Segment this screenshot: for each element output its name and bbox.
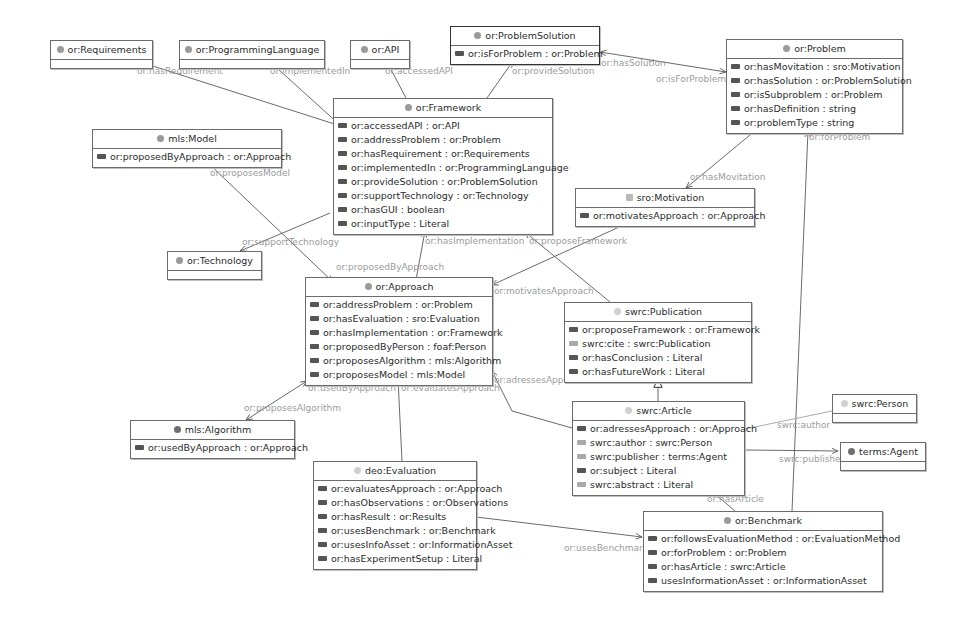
class-requirements[interactable]: or:Requirements [50,40,153,69]
class-icon [405,104,412,111]
edge-label-swrc-publisher: swrc:publisher [779,454,844,464]
class-icon [57,46,64,53]
property-icon [577,454,586,459]
class-approach[interactable]: or:Approach or:addressProblem : or:Probl… [305,277,493,386]
property-icon [648,550,657,555]
property-icon [310,344,319,349]
class-icon [185,46,192,53]
edge-label-has-solution: or:hasSolution [601,58,666,68]
class-benchmark[interactable]: or:Benchmark or:followsEvaluationMethod … [643,511,883,592]
class-icon [724,517,731,524]
class-icon [365,283,372,290]
class-icon [361,46,368,53]
class-icon [354,467,361,474]
edge-label-proposed-by-approach: or:proposedByApproach [336,262,444,272]
property-icon [318,514,327,519]
property-icon [569,327,578,332]
edge-label-has-movitation: or:hasMovitation [690,172,765,182]
property-icon [310,316,319,321]
property-icon [338,221,347,226]
property-icon [731,78,740,83]
property-icon [569,369,578,374]
edge-label-is-for-problem: or:isForProblem [656,74,726,84]
class-problem[interactable]: or:Problem or:hasMovitation : sro:Motiva… [726,39,903,134]
property-icon [338,193,347,198]
property-icon [648,536,657,541]
property-icon [310,372,319,377]
edge-has-implementation [416,231,425,280]
edge-label-propose-framework: or:proposeFramework [529,236,627,246]
class-icon [625,407,632,414]
edge-provide-solution [487,61,513,98]
class-article[interactable]: swrc:Article or:adressesApproach : or:Ap… [572,401,745,496]
class-icon [474,32,481,39]
property-icon [318,542,327,547]
edge-label-proposes-algorithm: or:proposesAlgorithm [244,403,341,413]
property-icon [310,330,319,335]
property-icon [338,179,347,184]
class-icon [176,257,183,264]
class-programming-language[interactable]: or:ProgrammingLanguage [179,40,325,69]
class-icon [783,45,790,52]
class-algorithm[interactable]: mls:Algorithm or:usedByApproach : or:App… [130,420,295,459]
property-icon [455,51,464,56]
property-icon [569,355,578,360]
class-framework[interactable]: or:Framework or:accessedAPI : or:API or:… [333,98,553,235]
edge-label-support-technology: or:supportTechnology [242,237,339,247]
property-icon [731,120,740,125]
property-icon [338,165,347,170]
property-icon [577,482,586,487]
property-icon [577,426,586,431]
property-icon [577,468,586,473]
class-person[interactable]: swrc:Person [832,394,917,423]
edge-label-proposes-model: or:proposesModel [210,168,290,178]
edge-label-has-implementation: or:hasImplementation [425,236,524,246]
property-icon [731,106,740,111]
property-icon [338,207,347,212]
edge-proposes-algorithm [246,381,307,420]
class-problem-solution[interactable]: or:ProblemSolution or:isForProblem : or:… [450,26,600,65]
class-icon [157,135,164,142]
class-api[interactable]: or:API [350,40,410,69]
edge-label-motivates-approach: or:motivatesApproach [494,286,594,296]
edge-label-swrc-author: swrc:author [777,420,830,430]
property-icon [338,137,347,142]
property-icon [310,302,319,307]
property-icon [318,556,327,561]
property-icon [135,445,144,450]
property-icon [648,564,657,569]
edge-uses-benchmark [476,517,642,537]
property-icon [318,528,327,533]
property-icon [648,578,657,583]
class-icon [626,194,633,201]
edge-swrc-publisher [745,450,838,451]
property-icon [569,341,578,346]
property-icon [318,500,327,505]
property-icon [97,154,106,159]
class-icon [848,448,855,455]
property-icon [580,213,589,218]
class-technology[interactable]: or:Technology [167,251,262,280]
class-icon [841,400,848,407]
class-model[interactable]: mls:Model or:proposedByApproach : or:App… [92,129,282,168]
property-icon [318,486,327,491]
edge-label-uses-benchmark: or:usesBenchmark [564,543,648,553]
property-icon [338,151,347,156]
class-evaluation[interactable]: deo:Evaluation or:evaluatesApproach : or… [313,461,477,570]
property-icon [577,440,586,445]
property-icon [338,123,347,128]
property-icon [731,92,740,97]
property-icon [731,64,740,69]
property-icon [310,358,319,363]
class-icon [174,426,181,433]
class-motivation[interactable]: sro:Motivation or:motivatesApproach : or… [575,188,755,227]
class-publication[interactable]: swrc:Publication or:proposeFramework : o… [564,302,752,383]
edge-adresses-approach [512,411,572,428]
edge-label-provide-solution: or:provideSolution [512,66,595,76]
class-icon [614,308,621,315]
class-agent[interactable]: terms:Agent [840,442,926,471]
